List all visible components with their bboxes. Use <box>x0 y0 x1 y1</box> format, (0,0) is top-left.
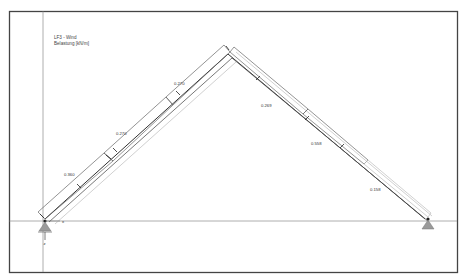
right-rafter-load-band-2 <box>303 109 368 164</box>
load-value-left-3: 0.270 <box>174 81 185 86</box>
load-value-right-2: 0.558 <box>311 141 322 146</box>
load-value-right-1: 0.269 <box>261 103 272 108</box>
left-rafter-load-band-2 <box>104 97 173 161</box>
load-value-right-3: 0.158 <box>370 187 381 192</box>
svg-text:z: z <box>44 241 46 246</box>
load-unit-label: Belastung [kN/m] <box>54 41 89 46</box>
right-pinned-support-icon[interactable] <box>422 217 434 229</box>
structural-diagram: LF3 - Wind Belastung [kN/m] <box>0 0 464 277</box>
load-value-left-2: 0.270 <box>116 131 127 136</box>
left-rafter-load-band-1 <box>38 153 113 219</box>
viewport-frame <box>10 12 458 273</box>
left-rafter[interactable] <box>45 54 236 224</box>
load-value-left-1: 0.360 <box>64 172 75 177</box>
load-arrow-markers <box>40 46 344 218</box>
load-case-title: LF3 - Wind <box>54 35 77 40</box>
